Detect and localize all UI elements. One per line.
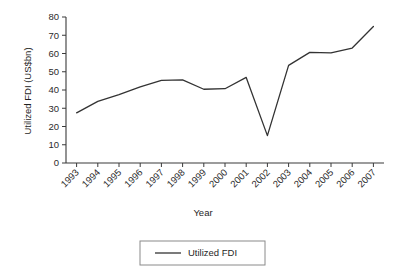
y-tick-label: 30: [48, 103, 59, 114]
y-tick-label: 0: [54, 157, 59, 168]
x-tick-label: 1999: [185, 167, 208, 190]
chart-legend: Utilized FDI: [140, 241, 265, 265]
y-tick-label: 60: [48, 48, 59, 59]
x-tick-label: 1995: [101, 167, 124, 190]
x-tick-label: 2003: [270, 167, 293, 190]
legend-label: Utilized FDI: [188, 247, 237, 258]
y-axis-title: Utilized FDI (US$bn): [22, 47, 33, 134]
line-chart: 01020304050607080 1993199419951996199719…: [0, 0, 405, 274]
data-series-group: [77, 26, 374, 135]
y-tick-label: 70: [48, 30, 59, 41]
y-axis: 01020304050607080: [48, 11, 66, 168]
x-tick-label: 2002: [249, 167, 272, 190]
x-tick-label: 2005: [313, 167, 336, 190]
x-tick-label: 2000: [207, 167, 230, 190]
x-axis-title: Year: [193, 207, 212, 218]
series-line-0: [77, 26, 374, 135]
chart-figure: 01020304050607080 1993199419951996199719…: [0, 0, 405, 274]
y-tick-label: 50: [48, 66, 59, 77]
x-axis: 1993199419951996199719981999200020012002…: [58, 163, 384, 189]
y-tick-label: 80: [48, 11, 59, 22]
y-tick-label: 40: [48, 84, 59, 95]
y-tick-label: 20: [48, 121, 59, 132]
y-tick-label: 10: [48, 139, 59, 150]
x-tick-label: 1993: [58, 167, 81, 190]
x-tick-label: 2001: [228, 167, 251, 190]
x-tick-label: 2004: [291, 167, 314, 190]
x-tick-label: 2007: [355, 167, 378, 190]
x-tick-label: 2006: [334, 167, 357, 190]
x-tick-label: 1997: [143, 167, 166, 190]
x-tick-label: 1996: [122, 167, 145, 190]
x-tick-label: 1994: [79, 167, 102, 190]
x-tick-label: 1998: [164, 167, 187, 190]
